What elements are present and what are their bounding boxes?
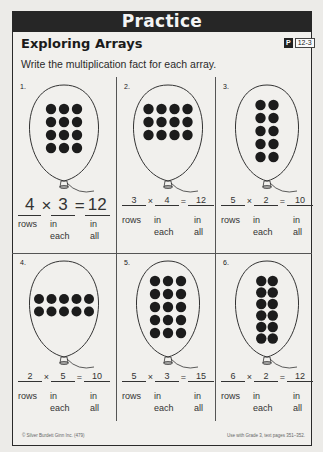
- problem-1: 1.4×3=12rowsineachinall: [12, 77, 112, 249]
- rows-label: rows: [18, 219, 37, 230]
- lesson-title: Exploring Arrays: [21, 36, 142, 51]
- copyright-text: © Silver Burdett Ginn Inc. (479): [22, 433, 85, 438]
- all-label: all: [90, 403, 99, 414]
- times-sign: ×: [148, 372, 153, 382]
- in-each-answer-field[interactable]: 5: [51, 371, 75, 382]
- each-label: each: [50, 403, 70, 414]
- in-each-answer-field[interactable]: 3: [155, 371, 179, 382]
- lesson-code-number: 12-3: [295, 38, 315, 48]
- equation: 4×3=12: [18, 195, 110, 216]
- equation: 6×2=12: [221, 371, 313, 382]
- in-each-answer-field[interactable]: 3: [51, 195, 74, 216]
- rows-label: rows: [221, 391, 240, 402]
- equals-sign: =: [77, 372, 82, 382]
- in-each-answer-field[interactable]: 2: [254, 371, 278, 382]
- in-label: in: [90, 391, 97, 402]
- all-label: all: [194, 403, 203, 414]
- rows-answer-field[interactable]: 2: [18, 371, 42, 382]
- all-label: all: [90, 231, 99, 242]
- in-label: in: [194, 215, 201, 226]
- instructions: Write the multiplication fact for each a…: [21, 58, 216, 70]
- lesson-code-prefix: P: [284, 38, 293, 48]
- balloon-array-icon: [221, 83, 313, 195]
- in-label: in: [90, 219, 97, 230]
- in-all-answer-field[interactable]: 12: [85, 195, 110, 216]
- times-sign: ×: [148, 196, 153, 206]
- rows-answer-field[interactable]: 4: [18, 195, 41, 216]
- in-all-answer-field[interactable]: 12: [287, 371, 313, 382]
- rows-answer-field[interactable]: 3: [122, 195, 146, 206]
- rows-label: rows: [122, 391, 141, 402]
- equation: 3×4=12: [122, 195, 214, 206]
- in-all-answer-field[interactable]: 12: [188, 195, 214, 206]
- in-each-answer-field[interactable]: 2: [254, 195, 278, 206]
- equals-sign: =: [75, 196, 85, 216]
- equation: 5×3=15: [122, 371, 214, 382]
- in-label: in: [50, 219, 57, 230]
- in-all-answer-field[interactable]: 15: [188, 371, 214, 382]
- equation: 2×5=10: [18, 371, 110, 382]
- in-all-answer-field[interactable]: 10: [84, 371, 110, 382]
- times-sign: ×: [41, 196, 51, 216]
- balloon-array-icon: [18, 83, 110, 195]
- times-sign: ×: [247, 372, 252, 382]
- each-label: each: [154, 403, 174, 414]
- in-label: in: [293, 391, 300, 402]
- times-sign: ×: [247, 196, 252, 206]
- times-sign: ×: [44, 372, 49, 382]
- each-label: each: [253, 227, 273, 238]
- equals-sign: =: [181, 196, 186, 206]
- each-label: each: [253, 403, 273, 414]
- in-label: in: [194, 391, 201, 402]
- each-label: each: [50, 231, 70, 242]
- in-label: in: [154, 215, 161, 226]
- problem-4: 4.2×5=10rowsineachinall: [12, 253, 112, 425]
- problem-5: 5.5×3=15rowsineachinall: [116, 253, 216, 425]
- rows-answer-field[interactable]: 6: [221, 371, 245, 382]
- rows-label: rows: [122, 215, 141, 226]
- rows-answer-field[interactable]: 5: [221, 195, 245, 206]
- all-label: all: [194, 227, 203, 238]
- equals-sign: =: [280, 196, 285, 206]
- in-label: in: [293, 215, 300, 226]
- rows-label: rows: [18, 391, 37, 402]
- problem-6: 6.6×2=12rowsineachinall: [215, 253, 315, 425]
- in-label: in: [253, 391, 260, 402]
- in-label: in: [154, 391, 161, 402]
- problem-2: 2.3×4=12rowsineachinall: [116, 77, 216, 249]
- in-label: in: [253, 215, 260, 226]
- balloon-array-icon: [122, 83, 214, 195]
- equation: 5×2=10: [221, 195, 313, 206]
- balloon-array-icon: [18, 259, 110, 371]
- equals-sign: =: [280, 372, 285, 382]
- equals-sign: =: [181, 372, 186, 382]
- in-label: in: [50, 391, 57, 402]
- usage-text: Use with Grade 3, text pages 351–352.: [227, 433, 305, 438]
- balloon-array-icon: [221, 259, 313, 371]
- balloon-array-icon: [122, 259, 214, 371]
- rows-answer-field[interactable]: 5: [122, 371, 146, 382]
- problem-3: 3.5×2=10rowsineachinall: [215, 77, 315, 249]
- lesson-code-badge: P 12-3: [284, 38, 315, 48]
- each-label: each: [154, 227, 174, 238]
- in-each-answer-field[interactable]: 4: [155, 195, 179, 206]
- all-label: all: [293, 227, 302, 238]
- practice-banner: Practice: [12, 11, 312, 32]
- rows-label: rows: [221, 215, 240, 226]
- in-all-answer-field[interactable]: 10: [287, 195, 313, 206]
- all-label: all: [293, 403, 302, 414]
- problem-grid: 1.4×3=12rowsineachinall2.3×4=12rowsineac…: [12, 77, 312, 421]
